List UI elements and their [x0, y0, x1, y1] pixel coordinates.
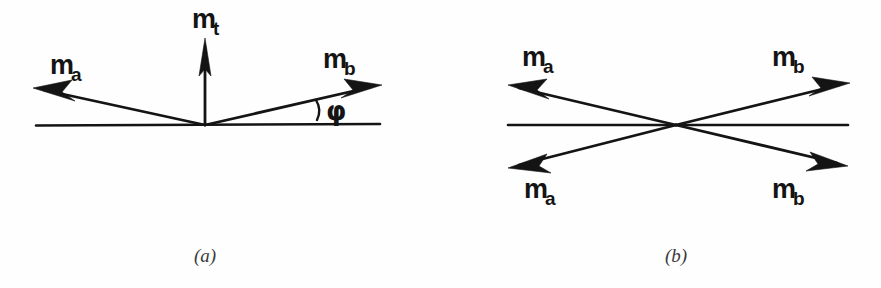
vector-m-b-lower-panel-b [676, 125, 848, 171]
label-m-b-lower-subscript: b [793, 188, 805, 209]
label-m-b-base: m [323, 44, 347, 74]
vector-m-b-lower-arrowhead [806, 152, 848, 171]
label-m-a-lower-panel-b: m a [524, 174, 556, 209]
panel-b: m a m b m a m b (b) [508, 42, 850, 267]
label-m-b-panel-a: m b [323, 44, 356, 79]
label-m-a-lower-subscript: a [545, 188, 556, 209]
angle-phi-label: φ [326, 96, 346, 126]
panel-a-caption: (a) [194, 245, 216, 267]
vector-m-a-arrowhead [33, 80, 75, 101]
vector-m-a-upper-shaft [519, 88, 676, 125]
vector-m-a-panel-a [33, 80, 205, 125]
label-m-a-upper-panel-b: m a [522, 42, 554, 77]
label-m-b-upper-subscript: b [793, 56, 805, 77]
vector-m-a-upper-arrowhead [508, 79, 549, 99]
figure-container: φ m a m t m b (a) [0, 0, 881, 288]
label-m-a-upper-base: m [522, 42, 546, 72]
label-m-t-base: m [192, 4, 216, 34]
vector-m-t-panel-a [199, 38, 211, 125]
vector-m-b-upper-arrowhead [809, 77, 850, 96]
angle-arc-icon [316, 100, 319, 120]
label-m-a-upper-subscript: a [543, 56, 554, 77]
label-m-b-upper-panel-b: m b [772, 42, 805, 77]
label-m-t-subscript: t [213, 18, 220, 39]
vector-m-a-lower-arrowhead [508, 154, 551, 173]
vector-m-b-upper-panel-b [676, 77, 850, 125]
diagram-canvas: φ m a m t m b (a) [0, 0, 881, 288]
panel-a: φ m a m t m b (a) [33, 4, 382, 267]
vector-m-a-upper-panel-b [508, 79, 676, 125]
vector-m-b-arrowhead [341, 79, 382, 98]
label-m-t-panel-a: m t [192, 4, 220, 39]
label-m-b-lower-panel-b: m b [772, 174, 805, 209]
vector-m-a-lower-panel-b [508, 125, 676, 173]
vector-m-b-lower-shaft [676, 125, 837, 163]
vector-m-b-upper-shaft [676, 85, 839, 125]
label-m-a-panel-a: m a [50, 50, 82, 85]
label-m-b-upper-base: m [772, 42, 796, 72]
label-m-b-subscript: b [344, 58, 356, 79]
label-m-a-lower-base: m [524, 174, 548, 204]
label-m-b-lower-base: m [772, 174, 796, 204]
vector-m-a-shaft [44, 90, 205, 125]
vector-m-b-panel-a [205, 79, 382, 125]
label-m-a-subscript: a [71, 64, 82, 85]
panel-b-caption: (b) [665, 245, 687, 267]
label-m-a-base: m [50, 50, 74, 80]
